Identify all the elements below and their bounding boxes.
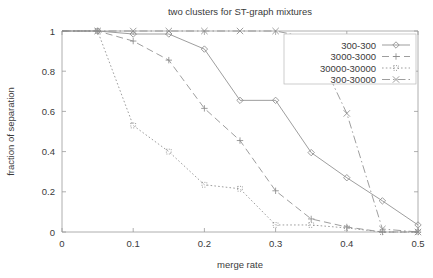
y-axis-title: fraction of separation bbox=[5, 87, 16, 176]
y-tick-label: 0.4 bbox=[42, 146, 55, 157]
y-tick-label: 0.2 bbox=[42, 186, 55, 197]
y-tick-label: 0.8 bbox=[42, 66, 55, 77]
x-tick-label: 0.1 bbox=[127, 238, 140, 249]
legend-label-3000-3000: 3000-3000 bbox=[331, 51, 376, 62]
marker-plus bbox=[272, 188, 278, 194]
legend: 300-3003000-300030000-30000300-30000 bbox=[284, 34, 416, 85]
marker-plus bbox=[237, 137, 243, 143]
chart-title: two clusters for ST-graph mixtures bbox=[168, 6, 312, 17]
x-axis-title: merge rate bbox=[217, 259, 263, 270]
y-tick-label: 0 bbox=[50, 227, 55, 238]
marker-cross bbox=[344, 110, 350, 116]
legend-label-30000-30000: 30000-30000 bbox=[320, 63, 376, 74]
x-tick-label: 0 bbox=[59, 238, 64, 249]
legend-label-300-30000: 300-30000 bbox=[331, 74, 376, 85]
marker-square-dot bbox=[131, 123, 136, 128]
marker-plus bbox=[130, 38, 136, 44]
legend-label-300-300: 300-300 bbox=[341, 40, 376, 51]
y-tick-label: 0.6 bbox=[42, 106, 55, 117]
y-tick-label: 1 bbox=[50, 26, 55, 37]
x-tick-label: 0.3 bbox=[269, 238, 282, 249]
marker-plus bbox=[344, 224, 350, 230]
line-chart: two clusters for ST-graph mixtures00.10.… bbox=[0, 0, 433, 278]
x-tick-label: 0.5 bbox=[411, 238, 424, 249]
x-tick-label: 0.4 bbox=[340, 238, 353, 249]
x-tick-label: 0.2 bbox=[198, 238, 211, 249]
chart-container: two clusters for ST-graph mixtures00.10.… bbox=[0, 0, 433, 278]
marker-plus bbox=[166, 57, 172, 63]
